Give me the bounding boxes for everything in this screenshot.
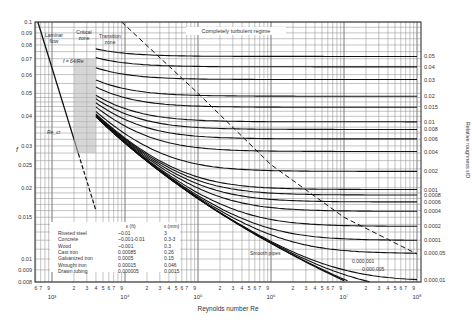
roughness-label: 0.000,01: [424, 277, 445, 283]
x-minor-tick-label: 9: [412, 285, 415, 291]
x-minor-tick-label: 6: [34, 285, 37, 291]
table-header: ε (mm): [164, 223, 180, 229]
roughness-curve: [96, 87, 417, 107]
table-cell: Drawn tubing: [58, 268, 88, 274]
roughness-label: 0.002: [424, 168, 438, 174]
critical-zone-shading: [74, 59, 96, 153]
table-cell: 3: [164, 230, 167, 236]
table-cell: Cast iron: [58, 249, 78, 255]
moody-diagram: 0.10.090.080.070.060.050.040.030.0250.02…: [0, 0, 472, 324]
roughness-curve: [96, 80, 417, 96]
transition-label: zone: [105, 39, 116, 45]
x-minor-tick-label: 2: [73, 285, 76, 291]
y-tick-label: 0.08: [21, 42, 32, 48]
y-axis-right-title: Relative roughness ε/D: [465, 122, 471, 179]
x-minor-tick-label: 7: [331, 285, 334, 291]
x-decade-label: 10⁷: [340, 294, 349, 300]
smooth-pipes-label: Smooth pipes: [250, 250, 281, 256]
y-tick-label: 0.009: [18, 267, 32, 273]
table-cell: 0.00085: [118, 249, 136, 255]
roughness-label: 0.0004: [424, 208, 441, 214]
x-minor-tick-label: 2: [292, 285, 295, 291]
x-minor-tick-label: 4: [95, 285, 98, 291]
table-cell: 0.0015: [164, 268, 180, 274]
y-tick-label: 0.008: [18, 279, 32, 285]
x-minor-tick-label: 7: [404, 285, 407, 291]
table-cell: 0.3-3: [164, 236, 176, 242]
x-minor-tick-label: 3: [304, 285, 307, 291]
x-decade-label: 10⁵: [193, 294, 203, 300]
x-minor-tick-label: 6: [399, 285, 402, 291]
x-minor-tick-label: 4: [387, 285, 390, 291]
roughness-label: 0.03: [424, 77, 435, 83]
x-minor-tick-label: 3: [377, 285, 380, 291]
x-minor-tick-label: 5: [248, 285, 251, 291]
roughness-label: 0.015: [424, 104, 438, 110]
y-tick-label: 0.07: [21, 56, 32, 62]
table-header: ε (ft): [126, 223, 136, 229]
table-cell: Riveted steel: [58, 230, 87, 236]
roughness-curve: [96, 95, 417, 122]
table-cell: Concrete: [58, 236, 79, 242]
table-cell: 0.0005: [118, 255, 134, 261]
x-minor-tick-label: 6: [107, 285, 110, 291]
y-tick-label: 0.015: [18, 214, 32, 220]
x-decade-label: 10⁶: [266, 294, 276, 300]
x-minor-tick-label: 3: [158, 285, 161, 291]
roughness-label: 0.02: [424, 93, 435, 99]
laminar-extension: [78, 154, 96, 211]
x-minor-tick-label: 6: [253, 285, 256, 291]
roughness-label: 0.0008: [424, 192, 441, 198]
x-minor-tick-label: 5: [394, 285, 397, 291]
x-minor-tick-label: 4: [168, 285, 171, 291]
x-minor-tick-label: 2: [219, 285, 222, 291]
x-minor-tick-label: 7: [185, 285, 188, 291]
y-tick-label: 0.1: [24, 19, 32, 25]
roughness-curve: [96, 68, 417, 80]
roughness-label: 0.004: [424, 149, 438, 155]
table-cell: ~0.001: [118, 243, 134, 249]
table-cell: Wood: [58, 243, 71, 249]
x-minor-tick-label: 4: [241, 285, 244, 291]
table-cell: 0.15: [164, 255, 174, 261]
table-cell: ~0.01: [118, 230, 131, 236]
laminar-equation: f = 64/Re: [63, 58, 84, 64]
x-minor-tick-label: 9: [47, 285, 50, 291]
roughness-label: 0.000,05: [424, 250, 445, 256]
roughness-curve: [96, 103, 417, 139]
x-minor-tick-label: 6: [326, 285, 329, 291]
x-minor-tick-label: 9: [193, 285, 196, 291]
curve-label: 0.000,001: [352, 258, 374, 264]
table-cell: Wrought iron: [58, 262, 87, 268]
roughness-curve: [96, 58, 417, 67]
y-tick-label: 0.06: [21, 72, 32, 78]
roughness-label: 0.0001: [424, 237, 441, 243]
x-decade-label: 10³: [48, 294, 57, 300]
x-minor-tick-label: 7: [112, 285, 115, 291]
turbulent-label: Completely turbulent regime: [202, 28, 271, 34]
y-tick-label: 0.04: [21, 113, 32, 119]
x-minor-tick-label: 2: [365, 285, 368, 291]
y-tick-label: 0.01: [21, 256, 32, 262]
table-cell: ~0.001-0.01: [118, 236, 145, 242]
x-minor-tick-label: 9: [339, 285, 342, 291]
roughness-table: ε (ft)ε (mm)Riveted steel~0.013Concrete~…: [50, 222, 180, 274]
x-minor-tick-label: 5: [102, 285, 105, 291]
table-cell: 0.00015: [118, 262, 136, 268]
table-cell: 0.26: [164, 249, 174, 255]
x-axis-title: Reynolds number Re: [197, 305, 258, 313]
roughness-label: 0.04: [424, 64, 435, 70]
roughness-label: 0.0006: [424, 199, 441, 205]
x-minor-tick-label: 5: [175, 285, 178, 291]
x-minor-tick-label: 7: [39, 285, 42, 291]
roughness-curve: [96, 111, 417, 171]
x-minor-tick-label: 9: [266, 285, 269, 291]
roughness-label: 0.0002: [424, 223, 441, 229]
x-decade-label: 10⁸: [412, 294, 422, 300]
table-cell: Galvanized iron: [58, 255, 93, 261]
roughness-label: 0.01: [424, 119, 435, 125]
y-tick-label: 0.03: [21, 143, 32, 149]
table-cell: 0.046: [164, 262, 177, 268]
roughness-label: 0.008: [424, 126, 438, 132]
x-minor-tick-label: 2: [146, 285, 149, 291]
